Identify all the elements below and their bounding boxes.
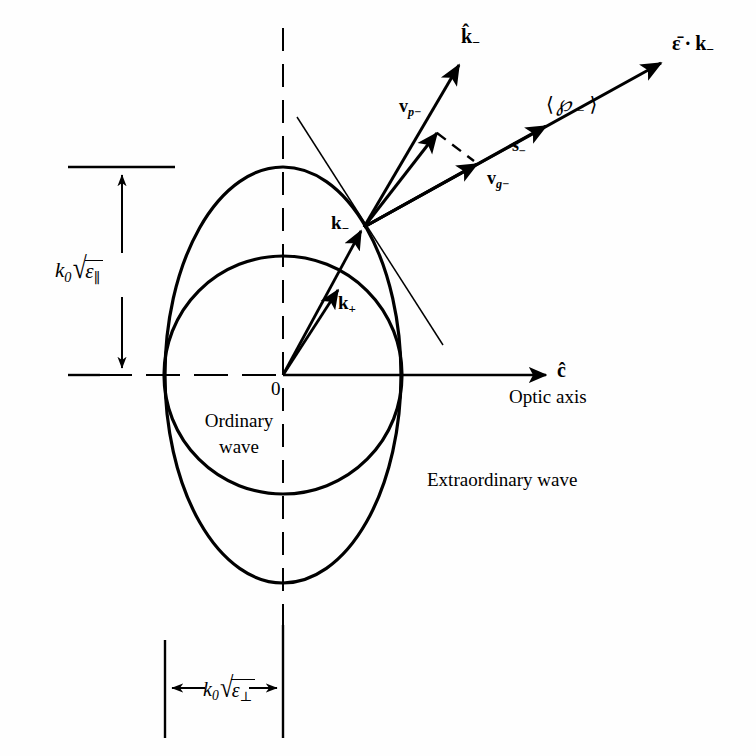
label-k0-sqrt-eps-perp: k0√ε⊥ — [203, 676, 255, 703]
poynting-subscript: − — [573, 103, 585, 118]
eps-subscript-horizontal: ⊥ — [240, 689, 253, 704]
label-poynting-average: ⟨℘−⟩ — [546, 93, 597, 118]
k0-symbol-horizontal: k — [203, 678, 212, 700]
k-hat-minus-subscript: − — [472, 35, 480, 50]
k-symbol: k — [695, 32, 706, 54]
k0-subscript-vertical: 0 — [64, 269, 71, 285]
k0-subscript-horizontal: 0 — [212, 688, 219, 703]
c-hat-symbol: ĉ — [557, 359, 566, 381]
poynting-symbol: ℘ — [554, 91, 573, 116]
s-minus-symbol: s — [512, 135, 519, 155]
label-origin: 0 — [271, 379, 281, 398]
extraordinary-wave-text: Extraordinary wave — [427, 469, 577, 490]
k-subscript: − — [706, 42, 714, 57]
sqrt-group-horizontal: √ε⊥ — [219, 676, 255, 703]
label-optic-axis: Optic axis — [509, 387, 587, 406]
vp-vg-dashed-connector — [437, 133, 474, 161]
k-minus-subscript: − — [342, 221, 349, 236]
k-minus-symbol: k — [331, 212, 342, 233]
eps-symbol-vertical: ε — [85, 259, 93, 283]
eps-subscript-vertical: ∥ — [94, 270, 101, 286]
label-ordinary-wave: Ordinary wave — [184, 411, 294, 456]
origin-text: 0 — [271, 378, 281, 399]
k-hat-minus-symbol: k̂ — [461, 25, 472, 47]
k-plus-symbol: k — [338, 292, 349, 313]
s-minus-subscript: − — [519, 144, 526, 158]
k-hat-minus-vector — [364, 65, 459, 227]
label-extraordinary-wave: Extraordinary wave — [427, 470, 577, 489]
label-k0-sqrt-eps-parallel: k0√ε∥ — [55, 256, 103, 284]
label-k-minus: k− — [331, 213, 349, 236]
eps-symbol-horizontal: ε — [232, 679, 240, 701]
optic-axis-text: Optic axis — [509, 386, 587, 407]
v-g-minus-symbol: v — [487, 168, 496, 188]
k0-symbol-vertical: k — [55, 258, 64, 282]
radicand-vertical: ε∥ — [85, 260, 103, 285]
figure-canvas: k̂− ε̄·k− vp− ⟨℘−⟩ s− vg− k− k+ 0 ĉ Opt… — [0, 0, 756, 756]
label-c-hat: ĉ — [557, 360, 566, 380]
label-eps-dot-k-minus: ε̄·k− — [672, 33, 714, 57]
eps-bar-symbol: ε̄ — [672, 32, 681, 54]
sqrt-group-vertical: √ε∥ — [71, 256, 102, 284]
label-v-p-minus: vp− — [399, 97, 422, 118]
dot-operator: · — [681, 32, 696, 54]
ordinary-wave-line2: wave — [184, 437, 294, 456]
label-v-g-minus: vg− — [487, 169, 510, 190]
v-g-minus-subscript: g− — [496, 177, 510, 191]
label-k-plus: k+ — [338, 293, 356, 316]
v-p-minus-symbol: v — [399, 96, 408, 116]
label-k-hat-minus: k̂− — [461, 26, 480, 50]
diagram-svg — [0, 0, 756, 756]
k-plus-subscript: + — [349, 301, 356, 316]
radicand-horizontal: ε⊥ — [231, 679, 255, 704]
angle-bracket-open: ⟨ — [546, 93, 554, 115]
v-p-minus-subscript: p− — [408, 105, 422, 119]
label-s-minus: s− — [512, 136, 526, 157]
angle-bracket-close: ⟩ — [584, 93, 597, 115]
ordinary-wave-line1: Ordinary — [184, 411, 294, 430]
